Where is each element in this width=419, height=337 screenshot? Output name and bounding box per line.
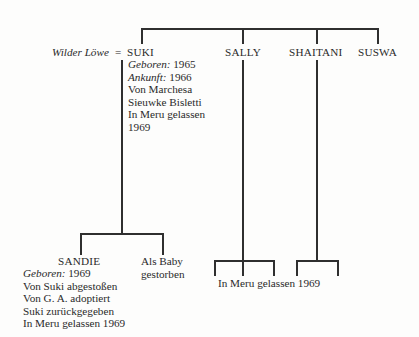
sally-child-drop [273,260,275,276]
baby-note: Als Baby [141,255,185,268]
suki-note: 1969 [128,121,205,134]
sandie-born: Geboren: 1969 [23,267,125,280]
suki-arrival: Ankunft: 1966 [128,71,205,84]
arrival-label: Ankunft: [128,71,167,83]
baby-details: Als Baby gestorben [141,255,185,280]
sally-descent-line [242,60,244,276]
sibling-suswa: SUSWA [358,46,397,59]
marriage-symbol: = [115,46,121,59]
born-value: 1965 [173,58,195,70]
sandie-note: In Meru gelassen 1969 [23,317,125,330]
suki-note: Von Marchesa [128,83,205,96]
sally-children-bar [214,260,274,262]
shaitani-descent-line [316,60,318,260]
sibling-bar [141,28,379,30]
sally-drop-line [242,28,244,44]
arrival-value: 1966 [169,71,191,83]
sandie-note: Von G. A. adoptiert [23,292,125,305]
sandie-note: Von Suki abgestoßen [23,280,125,293]
shaitani-drop-line [316,28,318,44]
suswa-drop-line [377,28,379,44]
father-name: Wilder Löwe [52,46,109,59]
suki-children-bar [80,233,163,235]
suki-name: SUKI [127,46,154,59]
sibling-sally: SALLY [225,46,261,59]
sandie-details: Geboren: 1969 Von Suki abgestoßen Von G.… [23,267,125,330]
shaitani-child-drop [337,260,339,276]
sibling-shaitani: SHAITANI [289,46,343,59]
suki-drop-line [141,28,143,44]
cubs-note: In Meru gelassen 1969 [218,277,320,290]
born-label: Geboren: [23,267,65,279]
suki-note: In Meru gelassen [128,108,205,121]
sally-child-drop [214,260,216,276]
baby-drop-line [162,233,164,255]
shaitani-child-drop [296,260,298,276]
baby-note: gestorben [141,268,185,281]
shaitani-children-bar [296,260,339,262]
born-label: Geboren: [128,58,170,70]
sandie-note: Suki zurückgegeben [23,305,125,318]
suki-details: Geboren: 1965 Ankunft: 1966 Von Marchesa… [128,58,205,134]
suki-born: Geboren: 1965 [128,58,205,71]
sandie-drop-line [80,233,82,255]
sandie-name: SANDIE [58,255,100,268]
suki-descent-line [121,60,123,234]
suki-note: Sieuwke Bisletti [128,96,205,109]
born-value: 1969 [68,267,90,279]
